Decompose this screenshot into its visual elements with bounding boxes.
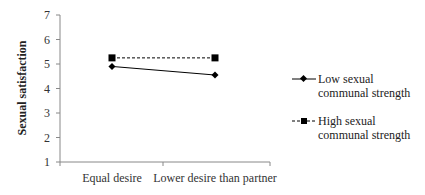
y-tick-label: 3 (44, 106, 50, 120)
y-axis-label: Sexual satisfaction (15, 23, 31, 153)
y-tick-label: 4 (44, 82, 50, 96)
square-marker-icon (109, 54, 116, 61)
legend-label: High sexual communal strength (318, 114, 425, 142)
legend-label: Low sexual communal strength (318, 72, 425, 100)
legend-square-dashed-icon (292, 114, 318, 128)
legend-item-low: Low sexual communal strength (292, 72, 425, 100)
legend-item-high: High sexual communal strength (292, 114, 425, 142)
y-tick-label: 2 (44, 131, 50, 145)
series-line (112, 66, 215, 75)
y-tick-label: 1 (44, 155, 50, 169)
x-tick-label: Equal desire (82, 171, 142, 185)
legend: Low sexual communal strength High sexual… (292, 72, 425, 156)
square-marker-icon (212, 54, 219, 61)
y-tick-label: 5 (44, 57, 50, 71)
y-tick-label: 6 (44, 33, 50, 47)
diamond-marker-icon (211, 71, 218, 78)
y-tick-label: 7 (44, 8, 50, 22)
x-tick-label: Lower desire than partner (153, 171, 277, 185)
diamond-marker-icon (108, 63, 115, 70)
legend-diamond-solid-icon (292, 72, 318, 86)
